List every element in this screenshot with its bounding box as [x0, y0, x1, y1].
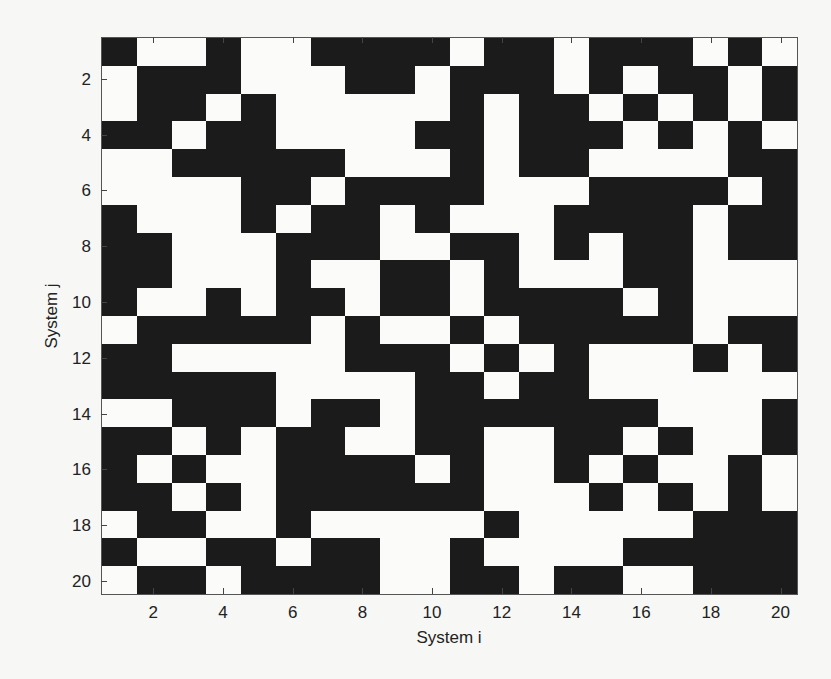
- heatmap-cell: [311, 121, 346, 149]
- heatmap-cell: [693, 511, 728, 539]
- heatmap-cell: [658, 149, 693, 177]
- heatmap-cell: [172, 566, 207, 594]
- heatmap-cell: [728, 149, 763, 177]
- x-tick-label: 18: [701, 604, 720, 621]
- heatmap-cell: [623, 511, 658, 539]
- heatmap-cell: [345, 233, 380, 261]
- x-tick-mark: [502, 588, 503, 594]
- heatmap-cell: [450, 483, 485, 511]
- heatmap-cell: [311, 94, 346, 122]
- heatmap-cell: [728, 66, 763, 94]
- heatmap-cell: [311, 399, 346, 427]
- heatmap-cell: [380, 455, 415, 483]
- heatmap-cell: [762, 511, 797, 539]
- heatmap-cell: [415, 177, 450, 205]
- heatmap-cell: [658, 483, 693, 511]
- heatmap-cell: [380, 94, 415, 122]
- heatmap-cell: [345, 205, 380, 233]
- heatmap-cell: [241, 511, 276, 539]
- heatmap-cell: [519, 205, 554, 233]
- heatmap-cell: [137, 511, 172, 539]
- heatmap-cell: [450, 427, 485, 455]
- heatmap-cell: [172, 455, 207, 483]
- heatmap-cell: [102, 316, 137, 344]
- plot-area: [101, 37, 798, 595]
- heatmap-cell: [241, 94, 276, 122]
- x-tick-mark: [362, 588, 363, 594]
- y-tick-mark: [101, 302, 107, 303]
- heatmap-cell: [519, 260, 554, 288]
- heatmap-cell: [693, 66, 728, 94]
- heatmap-cell: [415, 483, 450, 511]
- x-tick-label: 12: [492, 604, 511, 621]
- heatmap-cell: [728, 260, 763, 288]
- heatmap-cell: [728, 94, 763, 122]
- heatmap-cell: [450, 177, 485, 205]
- heatmap-cell: [589, 121, 624, 149]
- heatmap-cell: [589, 344, 624, 372]
- x-tick-label: 6: [288, 604, 297, 621]
- heatmap-cell: [311, 233, 346, 261]
- heatmap-cell: [762, 233, 797, 261]
- y-tick-mark: [101, 79, 107, 80]
- heatmap-cell: [137, 94, 172, 122]
- y-tick-mark: [101, 190, 107, 191]
- heatmap-cell: [589, 566, 624, 594]
- heatmap-cell: [380, 538, 415, 566]
- heatmap-cell: [311, 149, 346, 177]
- heatmap-cell: [206, 538, 241, 566]
- heatmap-cell: [658, 260, 693, 288]
- heatmap-cell: [415, 399, 450, 427]
- heatmap-cell: [589, 260, 624, 288]
- y-tick-label: 18: [72, 517, 91, 534]
- heatmap-cell: [519, 511, 554, 539]
- heatmap-cell: [658, 455, 693, 483]
- heatmap-cell: [137, 538, 172, 566]
- heatmap-cell: [484, 205, 519, 233]
- heatmap-cell: [311, 483, 346, 511]
- heatmap-cell: [450, 399, 485, 427]
- heatmap-cell: [172, 372, 207, 400]
- heatmap-cell: [206, 455, 241, 483]
- heatmap-cell: [345, 538, 380, 566]
- heatmap-cell: [658, 288, 693, 316]
- x-tick-label: 10: [423, 604, 442, 621]
- heatmap-cell: [484, 399, 519, 427]
- x-tick-mark: [223, 588, 224, 594]
- heatmap-cell: [276, 66, 311, 94]
- heatmap-cell: [589, 538, 624, 566]
- heatmap-cell: [172, 233, 207, 261]
- heatmap-cell: [554, 483, 589, 511]
- heatmap-cell: [589, 205, 624, 233]
- heatmap-cell: [311, 316, 346, 344]
- heatmap-cell: [380, 372, 415, 400]
- heatmap-cell: [345, 288, 380, 316]
- heatmap-cell: [241, 399, 276, 427]
- heatmap-cell: [206, 205, 241, 233]
- heatmap-cell: [102, 66, 137, 94]
- heatmap-cell: [102, 288, 137, 316]
- heatmap-cell: [172, 121, 207, 149]
- heatmap-cell: [554, 233, 589, 261]
- heatmap-cell: [693, 538, 728, 566]
- heatmap-cell: [102, 149, 137, 177]
- heatmap-cell: [693, 455, 728, 483]
- heatmap-cell: [519, 233, 554, 261]
- heatmap-cell: [137, 177, 172, 205]
- heatmap-cell: [589, 399, 624, 427]
- heatmap-cell: [415, 94, 450, 122]
- heatmap-cell: [554, 149, 589, 177]
- heatmap-cell: [415, 511, 450, 539]
- heatmap-cell: [658, 38, 693, 66]
- heatmap-cell: [484, 94, 519, 122]
- heatmap-cell: [519, 344, 554, 372]
- y-tick-mark: [101, 414, 107, 415]
- heatmap-cell: [728, 372, 763, 400]
- heatmap-cell: [554, 121, 589, 149]
- heatmap-cell: [345, 94, 380, 122]
- x-tick-mark: [293, 588, 294, 594]
- heatmap-cell: [241, 121, 276, 149]
- heatmap-cell: [206, 121, 241, 149]
- heatmap-cell: [415, 260, 450, 288]
- heatmap-cell: [658, 566, 693, 594]
